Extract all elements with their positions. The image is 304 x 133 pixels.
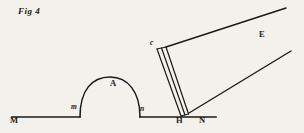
label-ground-left: M bbox=[10, 116, 18, 125]
figure-drawing bbox=[0, 0, 304, 133]
label-pivot: H bbox=[176, 116, 183, 125]
beam-line-upper bbox=[166, 8, 286, 47]
label-mound-left-foot: m bbox=[71, 103, 77, 111]
figure-caption: Fig 4 bbox=[18, 7, 40, 16]
label-ground-right: N bbox=[199, 116, 205, 125]
label-mound-apex: A bbox=[110, 79, 116, 88]
rod-edge-middle bbox=[162, 48, 186, 115]
label-beam: E bbox=[259, 30, 265, 39]
figure-canvas: Fig 4 M m A n H N c E bbox=[0, 0, 304, 133]
beam-line-lower bbox=[189, 51, 291, 113]
label-rod-top: c bbox=[150, 39, 153, 47]
label-mound-right-foot: n bbox=[140, 105, 144, 113]
